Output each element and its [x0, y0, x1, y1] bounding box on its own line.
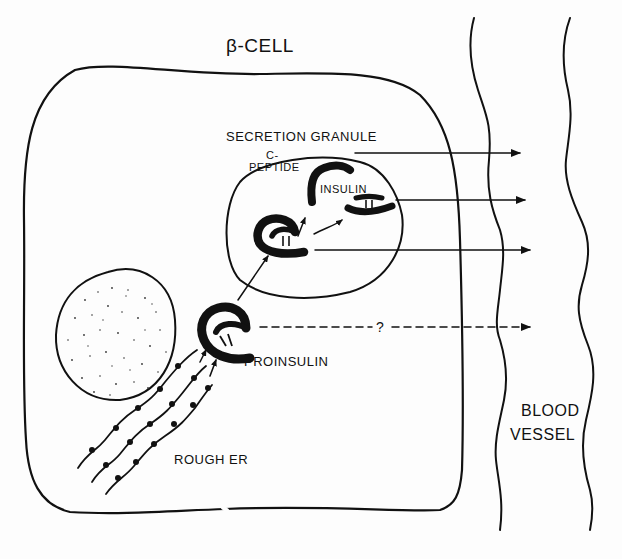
c-peptide-label-line1: C- [266, 149, 279, 161]
nucleus [56, 269, 175, 400]
blood-vessel-wall-left [471, 18, 507, 530]
insulin-label: INSULIN [320, 183, 367, 195]
diagram-canvas: β-CELL [0, 0, 622, 559]
rough-er [78, 350, 216, 494]
blood-vessel-label-line2: VESSEL [510, 426, 575, 443]
secretion-granule-label: SECRETION GRANULE [226, 129, 377, 144]
proinsulin-label: PROINSULIN [244, 354, 328, 369]
granule-proinsulin [258, 219, 304, 254]
rough-er-label: ROUGH ER [174, 452, 248, 467]
blood-vessel-wall-right [564, 18, 594, 530]
unknown-path-label: ? [376, 319, 384, 335]
c-peptide-label-line2: PEPTIDE [249, 161, 300, 173]
proinsulin-molecule [202, 307, 250, 359]
insulin-molecule [348, 197, 392, 212]
blood-vessel-label-line1: BLOOD [521, 402, 580, 419]
cell-title: β-CELL [226, 35, 294, 56]
